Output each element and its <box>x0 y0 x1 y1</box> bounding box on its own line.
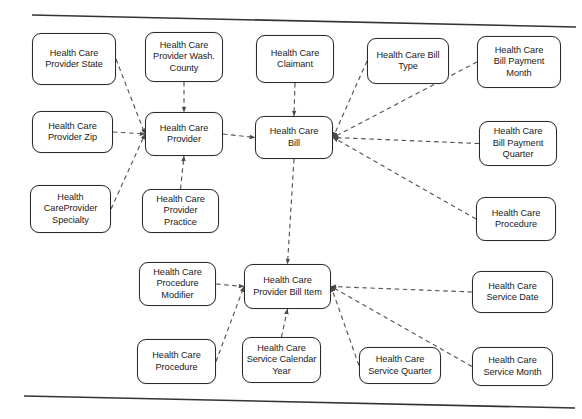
entity-node-label: Health Care Provider State <box>45 48 103 71</box>
entity-node-provider_specialty[interactable]: Health CareProvider Specialty <box>30 185 111 233</box>
entity-node-bill[interactable]: Health Care Bill <box>255 116 333 159</box>
entity-node-label: Health Care Procedure <box>152 350 200 373</box>
entity-node-label: Health Care Procedure Modifier <box>153 267 201 301</box>
entity-node-label: Health Care Service Month <box>483 355 541 378</box>
entity-node-label: Health Care Provider Practice <box>156 194 204 228</box>
diagram-canvas: Health Care Provider StateHealth Care Pr… <box>0 0 582 419</box>
entity-node-label: Health Care Provider Zip <box>48 121 97 144</box>
entity-node-procedure_bottom[interactable]: Health Care Procedure <box>137 339 216 384</box>
entity-node-service_cal_year[interactable]: Health Care Service Calendar Year <box>242 337 321 383</box>
entity-node-provider_zip[interactable]: Health Care Provider Zip <box>32 111 113 153</box>
entity-node-label: Health Care Service Quarter <box>368 354 432 377</box>
entity-node-service_month[interactable]: Health Care Service Month <box>472 347 553 386</box>
entity-node-procedure_right[interactable]: Health Care Procedure <box>476 197 556 241</box>
entity-node-procedure_modifier[interactable]: Health Care Procedure Modifier <box>139 262 216 306</box>
entity-node-bill_payment_qtr[interactable]: Health Care Bill Payment Quarter <box>479 121 557 166</box>
entity-node-label: Health Care Bill Payment Quarter <box>493 126 543 160</box>
entity-node-bill_type[interactable]: Health Care Bill Type <box>367 38 449 84</box>
entity-node-provider_state[interactable]: Health Care Provider State <box>32 33 116 85</box>
entity-node-label: Health Care Service Calendar Year <box>247 343 317 377</box>
entity-node-provider[interactable]: Health Care Provider <box>145 112 223 156</box>
node-layer: Health Care Provider StateHealth Care Pr… <box>0 0 582 419</box>
entity-node-provider_county[interactable]: Health Care Provider Wash. County <box>145 32 223 82</box>
entity-node-bill_payment_month[interactable]: Health Care Bill Payment Month <box>477 36 561 88</box>
entity-node-service_quarter[interactable]: Health Care Service Quarter <box>359 347 441 384</box>
entity-node-service_date[interactable]: Health Care Service Date <box>472 271 553 313</box>
entity-node-label: Health CareProvider Specialty <box>44 192 98 226</box>
entity-node-label: Health Care Claimant <box>271 48 319 71</box>
entity-node-label: Health Care Bill Payment Month <box>494 45 544 79</box>
entity-node-label: Health Care Provider Wash. County <box>153 40 215 74</box>
entity-node-label: Health Care Service Date <box>487 281 539 304</box>
entity-node-label: Health Care Bill <box>270 126 318 149</box>
entity-node-provider_practice[interactable]: Health Care Provider Practice <box>142 189 219 233</box>
entity-node-label: Health Care Bill Type <box>376 50 439 73</box>
entity-node-provider_bill_item[interactable]: Health Care Provider Bill Item <box>244 264 331 309</box>
entity-node-label: Health Care Procedure <box>492 208 540 231</box>
entity-node-claimant[interactable]: Health Care Claimant <box>256 35 334 83</box>
entity-node-label: Health Care Provider Bill Item <box>253 275 322 298</box>
entity-node-label: Health Care Provider <box>160 123 208 146</box>
